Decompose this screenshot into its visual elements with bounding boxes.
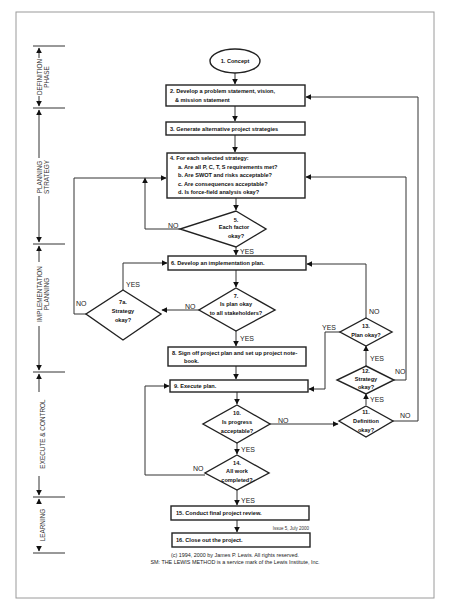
svg-text:10.: 10. [233,410,241,416]
phase-label-execute-control: EXECUTE & CONTROL [39,399,46,469]
svg-text:PLANNING: PLANNING [36,161,43,194]
issue-note: Issue 5, July 2000 [273,526,310,531]
node-1-concept: 1. Concept [210,49,260,73]
label-7a-yes: YES [126,281,140,288]
svg-text:9. Execute plan.: 9. Execute plan. [174,383,217,389]
svg-text:All work: All work [226,468,249,474]
svg-text:Plan okay?: Plan okay? [351,332,381,338]
label-11-yes: YES [370,396,384,403]
node-15-final-review: 15. Conduct final project review. [171,506,309,520]
node-8-sign-off-plan: 8. Sign off project plan and set up proj… [168,347,306,366]
label-5-yes: YES [240,248,254,255]
node-5-each-factor-okay: 5. Each factor okay? [180,211,266,247]
label-14-yes: YES [241,497,255,504]
svg-text:Each factor: Each factor [219,224,250,230]
svg-text:completed?: completed? [221,477,253,483]
label-14-no: NO [193,465,204,472]
svg-text:16. Close out the project.: 16. Close out the project. [176,537,243,543]
svg-text:to all stakeholders?: to all stakeholders? [210,310,263,316]
svg-text:Is progress: Is progress [222,419,252,425]
svg-text:12.: 12. [362,368,370,374]
svg-text:EXECUTE & CONTROL: EXECUTE & CONTROL [39,399,46,469]
label-7-no: NO [185,303,196,310]
phase-label-planning-strategy: PLANNING STRATEGY [36,159,50,194]
svg-text:d. Is force-field analysis oka: d. Is force-field analysis okay? [178,189,260,195]
svg-text:5.: 5. [234,217,239,223]
svg-text:11.: 11. [362,409,370,415]
svg-text:STRATEGY: STRATEGY [43,159,50,194]
svg-text:14.: 14. [233,460,241,466]
node-4-strategy-checks: 4. For each selected strategy: a. Are al… [167,153,305,198]
phase-label-learning: LEARNING [39,509,46,542]
svg-text:IMPLEMENTATION: IMPLEMENTATION [36,266,43,322]
label-5-no: NO [168,222,179,229]
label-12-no: NO [395,368,406,375]
label-11-no: NO [400,412,411,419]
svg-text:PLANNING: PLANNING [43,278,50,311]
node-10-progress-acceptable: 10. Is progress acceptable? [203,405,270,443]
svg-text:Strategy: Strategy [355,376,378,382]
svg-text:acceptable?: acceptable? [221,428,254,434]
label-13-no: NO [369,308,380,315]
node-2-problem-statement: 2. Develop a problem statement, vision, … [166,85,305,106]
flowchart-canvas: DEFINITION PHASE PLANNING STRATEGY IMPLE… [0,0,450,606]
phase-label-definition: DEFINITION PHASE [36,59,50,96]
svg-text:& mission statement: & mission statement [175,97,230,103]
svg-text:okay?: okay? [228,233,245,239]
node-6-implementation-plan: 6. Develop an implementation plan. [168,256,306,270]
node-12-strategy-okay: 12. Strategy okay? [337,366,394,394]
svg-text:LEARNING: LEARNING [39,509,46,542]
svg-text:okay?: okay? [115,317,132,323]
svg-text:15. Conduct final project revi: 15. Conduct final project review. [176,510,262,516]
node-13-plan-okay: 13. Plan okay? [340,318,392,346]
node-11-definition-okay: 11. Definition okay? [339,406,393,437]
node-7a-strategy-okay: 7a. Strategy okay? [86,290,161,340]
svg-text:8. Sign off project plan and s: 8. Sign off project plan and set up proj… [172,350,297,356]
svg-text:book.: book. [184,358,199,364]
svg-text:c. Are consequences acceptable: c. Are consequences acceptable? [178,181,268,187]
svg-text:4. For each selected strategy:: 4. For each selected strategy: [170,155,249,161]
svg-text:PHASE: PHASE [43,66,50,88]
node-9-execute-plan: 9. Execute plan. [170,380,308,392]
node-7-plan-okay-stakeholders: 7. Is plan okay to all stakeholders? [199,288,275,331]
svg-text:7.: 7. [234,293,239,299]
copyright-text: (c) 1994, 2000 by James P. Lewis. All ri… [171,552,299,558]
svg-text:2. Develop a problem statement: 2. Develop a problem statement, vision, [170,88,276,94]
svg-text:okay?: okay? [358,384,375,390]
node-14-all-work-completed: 14. All work completed? [205,455,269,490]
svg-text:Is plan okay: Is plan okay [220,301,253,307]
svg-text:1. Concept: 1. Concept [221,58,250,64]
node-16-close-out: 16. Close out the project. [172,533,310,547]
svg-text:DEFINITION: DEFINITION [36,59,43,96]
label-12-yes: YES [370,355,384,362]
label-10-yes: YES [241,446,255,453]
label-7a-no: NO [76,300,87,307]
svg-text:7a.: 7a. [119,299,127,305]
svg-text:13.: 13. [362,323,370,329]
phase-label-implementation-planning: IMPLEMENTATION PLANNING [36,266,50,322]
svg-text:a. Are all P, C, T, S requirem: a. Are all P, C, T, S requirements met? [178,164,278,170]
label-10-no: NO [278,417,289,424]
svg-text:Strategy: Strategy [112,308,135,314]
label-13-yes: YES [322,324,336,331]
svg-text:b. Are SWOT and risks acceptab: b. Are SWOT and risks acceptable? [178,172,273,178]
svg-text:6. Develop an implementation p: 6. Develop an implementation plan. [171,260,265,266]
service-mark-text: SM: THE LEWIS METHOD is a service mark o… [150,559,319,565]
svg-text:okay?: okay? [358,427,375,433]
label-7-yes: YES [240,335,254,342]
node-3-alternative-strategies: 3. Generate alternative project strategi… [166,122,305,135]
svg-text:3. Generate alternative projec: 3. Generate alternative project strategi… [170,126,278,132]
svg-text:Definition: Definition [353,418,379,424]
